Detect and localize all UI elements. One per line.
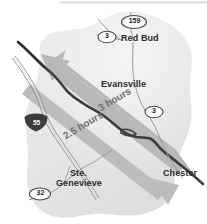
route-shield-159-number: 159 — [123, 17, 146, 24]
city-label-chester: Chester — [163, 169, 197, 178]
route-shield-3-west-number: 3 — [100, 32, 114, 39]
route-shield-3-east-number: 3 — [147, 107, 161, 114]
city-label-red-bud: Red Bud — [121, 34, 159, 43]
interstate-shield-55-number: 55 — [28, 119, 45, 126]
route-shield-32-number: 32 — [32, 189, 49, 196]
top-rule — [60, 2, 207, 4]
city-label-genevieve: Genevieve — [56, 179, 102, 188]
regional-road-map: Red Bud Evansville Ste. Genevieve Cheste… — [0, 0, 207, 224]
